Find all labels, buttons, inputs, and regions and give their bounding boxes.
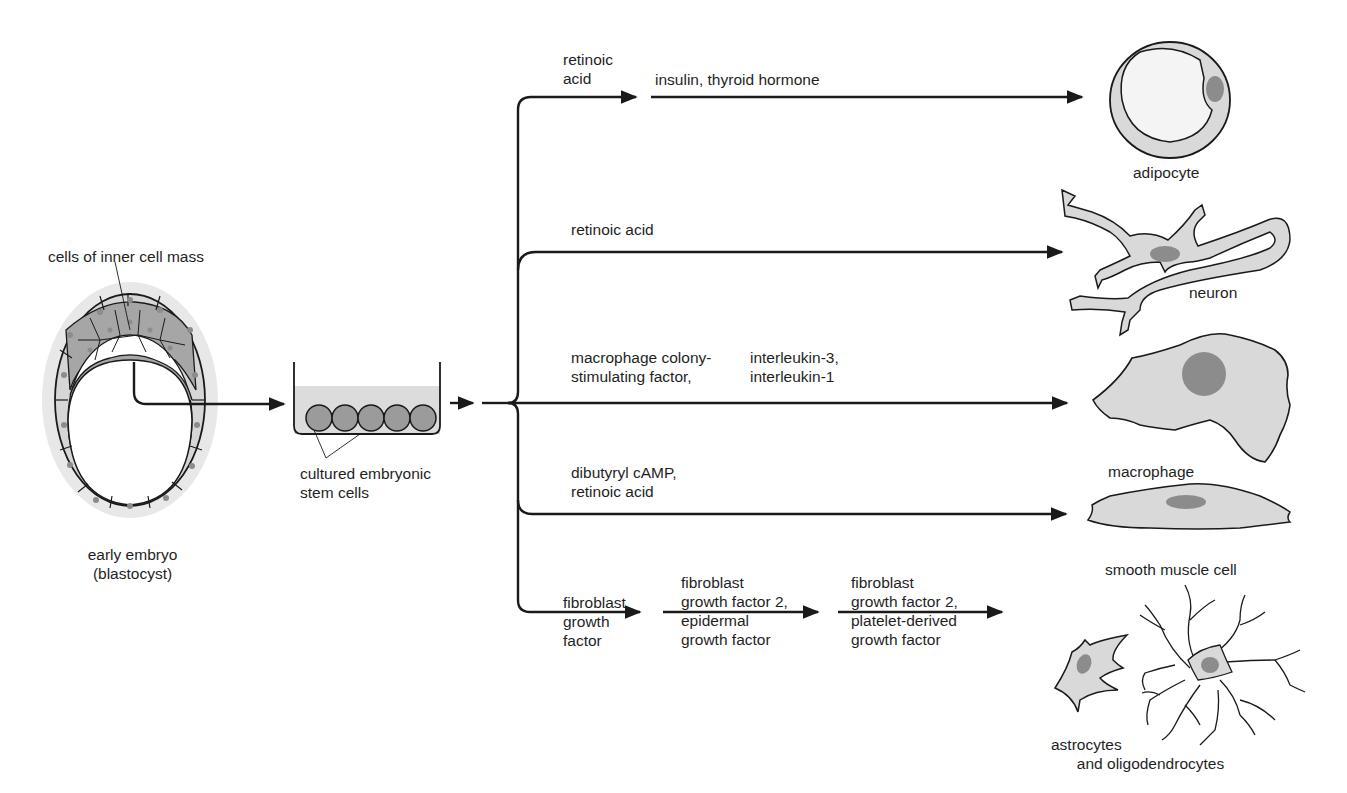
diagram-canvas [0, 0, 1347, 793]
step-label-interleukins: interleukin-3, interleukin-1 [750, 348, 839, 386]
adipocyte-illustration [1110, 42, 1230, 158]
macrophage-illustration [1093, 334, 1290, 462]
step-label-insulin: insulin, thyroid hormone [655, 70, 820, 89]
step-label-cAMP: dibutyryl cAMP, retinoic acid [571, 463, 677, 501]
culture-dish-illustration [294, 362, 440, 458]
step-label-retinoic-acid-2: retinoic acid [571, 220, 654, 239]
oligodendrocyte-illustration [1140, 585, 1305, 745]
neuron-illustration [1062, 190, 1290, 335]
culture-label: cultured embryonic stem cells [300, 464, 431, 502]
step-label-fgf: fibroblast growth factor [563, 593, 626, 650]
cell-label-macrophage: macrophage [1108, 462, 1194, 481]
cell-label-neuron: neuron [1189, 283, 1237, 302]
astrocyte-illustration [1055, 635, 1127, 712]
cell-label-smooth-muscle: smooth muscle cell [1105, 560, 1237, 579]
icm-label: cells of inner cell mass [48, 247, 204, 266]
step-label-fgf2-egf: fibroblast growth factor 2, epidermal gr… [681, 573, 788, 649]
step-label-fgf2-pdgf: fibroblast growth factor 2, platelet-der… [851, 573, 958, 649]
step-label-mcsf: macrophage colony- stimulating factor, [571, 348, 711, 386]
step-label-retinoic-acid-1: retinoic acid [563, 50, 613, 88]
blastocyst-illustration [42, 262, 218, 518]
cell-label-glia: astrocytes and oligodendrocytes [1051, 735, 1224, 773]
embryo-label: early embryo (blastocyst) [60, 545, 205, 583]
cell-label-adipocyte: adipocyte [1133, 163, 1199, 182]
smooth-muscle-cell-illustration [1088, 484, 1290, 529]
